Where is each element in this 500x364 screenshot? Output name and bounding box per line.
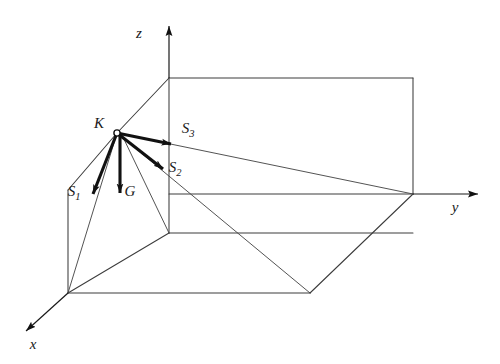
vector-S1: [93, 133, 117, 194]
box-edge-top-left-slant: [117, 78, 169, 133]
box-edge-apex-to-y-node: [310, 194, 413, 293]
node-K-label: K: [93, 115, 105, 131]
vector-S2-label-sub: 2: [176, 167, 182, 178]
force-diagram-figure: z y x K S1 G S2 S3: [0, 0, 500, 364]
diagram-canvas: z y x K S1 G S2 S3: [0, 0, 500, 364]
vector-S2-label: S2: [169, 159, 183, 178]
x-axis-label: x: [29, 336, 37, 352]
vector-labels: S1 G S2 S3: [68, 120, 195, 202]
x-axis-line: [26, 293, 68, 331]
vector-G-label: G: [125, 183, 136, 199]
vector-S3-label: S3: [182, 120, 195, 139]
node-K-dot: [114, 130, 120, 136]
vector-S1-label-sub: 1: [75, 191, 80, 202]
member-K-to-front-bottom: [68, 133, 117, 293]
y-axis-label: y: [450, 199, 459, 215]
vector-G-label-base: G: [125, 183, 136, 199]
coordinate-axes: [26, 26, 478, 331]
box-edge-left-front-slant: [68, 133, 117, 190]
axis-labels: z y x: [29, 25, 459, 352]
vector-S1-label: S1: [68, 183, 81, 202]
z-axis-label: z: [135, 25, 142, 41]
vector-S3-label-sub: 3: [188, 128, 194, 139]
node-labels: K: [93, 115, 105, 131]
